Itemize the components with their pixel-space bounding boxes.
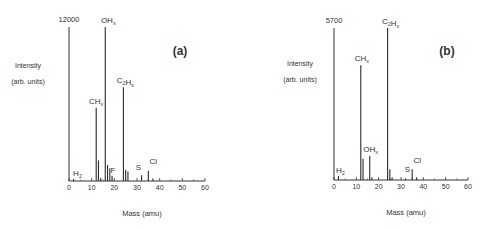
peak-label-cl: Cl	[413, 156, 421, 165]
x-tick-label: 30	[133, 184, 141, 191]
y-max-label: 12000	[59, 15, 80, 24]
x-tick-label: 50	[178, 184, 186, 191]
chart-panel-a: 010203040506012000Intensity(arb. units)M…	[0, 0, 242, 230]
mass-spectrum-b: 01020304050605700Intensity(arb. units)Ma…	[242, 0, 485, 230]
x-axis-label: Mass (amu)	[386, 208, 426, 217]
x-tick-label: 20	[110, 184, 118, 191]
peak-label-c2hx: C2Hx	[382, 17, 400, 29]
panel-label: (a)	[173, 44, 188, 58]
peak-label-s: S	[136, 163, 141, 172]
x-tick-label: 30	[397, 183, 405, 190]
x-tick-label: 20	[375, 183, 383, 190]
panel-label: (b)	[439, 44, 454, 58]
peak-label-f: F	[111, 166, 116, 175]
y-axis-units-label: (arb. units)	[283, 76, 316, 84]
x-tick-label: 60	[201, 184, 209, 191]
peak-label-chx: CHx	[89, 97, 104, 107]
peak-label-ohx: OHx	[363, 145, 378, 155]
x-tick-label: 40	[419, 183, 427, 190]
chart-panel-b: 01020304050605700Intensity(arb. units)Ma…	[242, 0, 485, 230]
peak-label-c2hx: C2Hx	[117, 76, 135, 88]
peak-label-ohx: OHx	[101, 16, 116, 26]
x-tick-label: 10	[352, 183, 360, 190]
x-tick-label: 50	[442, 183, 450, 190]
peak-label-h2: H2	[336, 166, 345, 176]
peak-label-s: S	[405, 165, 410, 174]
y-axis-units-label: (arb. units)	[11, 78, 44, 86]
y-axis-label: Intensity	[287, 60, 314, 68]
x-tick-label: 10	[88, 184, 96, 191]
y-axis-label: Intensity	[15, 62, 42, 70]
mass-spectrum-a: 010203040506012000Intensity(arb. units)M…	[0, 0, 242, 230]
x-tick-label: 0	[67, 184, 71, 191]
x-tick-label: 40	[156, 184, 164, 191]
x-tick-label: 60	[464, 183, 472, 190]
x-axis-label: Mass (amu)	[122, 209, 162, 218]
peak-label-cl: Cl	[150, 157, 158, 166]
peak-label-h2: H2	[73, 169, 82, 179]
peak-label-chx: CHx	[355, 54, 370, 64]
x-tick-label: 0	[332, 183, 336, 190]
y-max-label: 5700	[326, 16, 343, 25]
